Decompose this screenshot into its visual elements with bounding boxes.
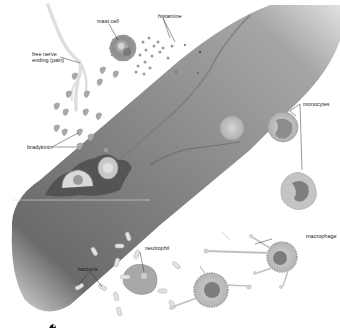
publisher-logo-icon [48,317,57,325]
inflammation-diagram: mast cell histamine free nerve ending (p… [0,0,340,328]
label-bradykinin: bradykinin [27,144,52,150]
macrophages [169,232,297,310]
neutrophil [120,264,157,294]
label-histamine: histamine [158,13,182,19]
label-monocytes: monocytes [303,101,330,107]
macrophage-left [169,266,252,310]
histamine-granules [135,37,174,76]
label-bacteria: bacteria [78,266,98,272]
label-macrophage: macrophage [306,233,337,239]
label-free-nerve-ending: free nerve ending (pain) [32,51,66,63]
label-neutrophil: neutrophil [145,245,169,251]
diagram-canvas [0,0,340,328]
label-mast-cell: mast cell [97,18,119,24]
mast-cell [109,35,136,61]
